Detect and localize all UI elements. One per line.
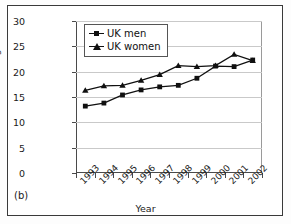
grid-line [76, 97, 262, 98]
y-tick-label: 5 [1, 142, 25, 153]
legend-label-uk-women: UK women [107, 41, 161, 52]
x-tick-mark [76, 173, 77, 178]
legend-item-uk-men: UK men [89, 27, 161, 40]
grid-line [76, 148, 262, 149]
y-tick-label: 25 [1, 41, 25, 52]
y-tick-label: 20 [1, 66, 25, 77]
triangle-marker-icon [89, 42, 104, 52]
grid-line [76, 72, 262, 73]
x-axis-title: Year [0, 203, 291, 214]
legend-label-uk-men: UK men [107, 28, 146, 39]
chart-legend: UK men UK women [84, 24, 168, 57]
y-tick-label: 30 [1, 16, 25, 27]
grid-line [76, 21, 262, 22]
y-tick-label: 0 [1, 168, 25, 179]
grid-line [76, 122, 262, 123]
legend-item-uk-women: UK women [89, 40, 161, 53]
y-tick-label: 15 [1, 92, 25, 103]
figure-panel: (b) Percentage 051015202530 199319941995… [0, 0, 291, 224]
y-tick-label: 10 [1, 117, 25, 128]
panel-letter-label: (b) [14, 190, 28, 201]
square-marker-icon [89, 29, 104, 39]
